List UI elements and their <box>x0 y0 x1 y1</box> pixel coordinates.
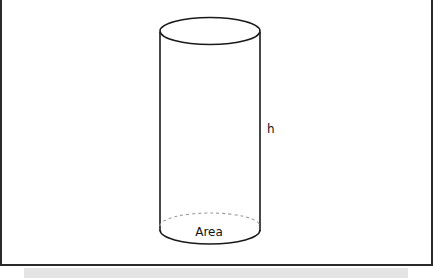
height-label: h <box>267 122 275 136</box>
cylinder-diagram: h Area <box>0 0 433 278</box>
area-label: Area <box>195 225 223 239</box>
cylinder-top-ellipse <box>160 18 260 45</box>
